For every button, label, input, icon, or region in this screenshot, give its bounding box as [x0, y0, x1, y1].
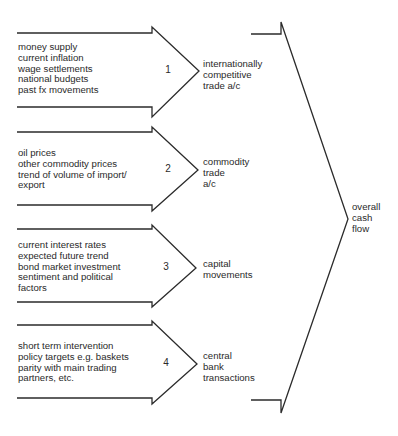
overall-arrow-shape — [251, 22, 348, 413]
arrow-2-number: 2 — [163, 163, 173, 174]
factor-text: policy targets e.g. baskets — [18, 352, 129, 363]
outcome-text: movements — [203, 270, 253, 281]
arrow-2-factors: oil prices other commodity prices trend … — [18, 148, 127, 191]
factor-text: expected future trend — [18, 251, 120, 262]
overall-cash-flow-label: overall cash flow — [352, 201, 380, 234]
final-text: cash — [352, 212, 380, 223]
arrow-3-number: 3 — [161, 261, 171, 272]
arrow-2-outcome: commodity trade a/c — [203, 157, 249, 189]
factor-text: partners, etc. — [18, 373, 129, 384]
final-text: flow — [352, 223, 380, 234]
final-text: overall — [352, 201, 380, 212]
outcome-text: competitive — [203, 70, 262, 81]
factor-text: factors — [18, 283, 120, 294]
arrow-4-factors: short term intervention policy targets e… — [18, 341, 129, 384]
outcome-text: trade a/c — [203, 81, 262, 92]
arrow-3-factors: current interest rates expected future t… — [18, 240, 120, 294]
outcome-text: a/c — [203, 179, 249, 190]
outcome-text: bank — [203, 362, 255, 373]
outcome-text: transactions — [203, 373, 255, 384]
factor-text: other commodity prices — [18, 159, 127, 170]
factor-text: export — [18, 180, 127, 191]
arrow-4-number: 4 — [161, 357, 171, 368]
arrow-3-outcome: capital movements — [203, 259, 253, 281]
arrow-4-outcome: central bank transactions — [203, 351, 255, 383]
arrow-1-outcome: internationally competitive trade a/c — [203, 59, 262, 91]
outcome-text: trade — [203, 168, 249, 179]
factor-text: past fx movements — [18, 85, 99, 96]
factor-text: current inflation — [18, 53, 99, 64]
arrow-1-factors: money supply current inflation wage sett… — [18, 42, 99, 96]
arrow-1-number: 1 — [163, 64, 173, 75]
